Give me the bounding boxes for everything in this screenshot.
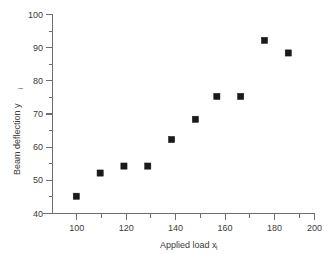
y-axis-title-text: Beam deflection y [12,103,22,175]
y-tick-label-90: 90 [33,43,43,53]
y-tick-label-60: 60 [33,142,43,152]
data-point [261,37,267,43]
y-axis-title-subscript: i [17,88,24,89]
data-point [73,193,79,199]
data-point [238,93,244,99]
data-point [97,170,103,176]
data-point [214,93,220,99]
y-tick-label-70: 70 [33,109,43,119]
plot-canvas: 40 50 60 70 80 90 100 100 120 140 [0,0,334,254]
x-tick-label-180: 180 [267,223,282,233]
data-point [192,116,198,122]
data-point [145,163,151,169]
y-tick-label-80: 80 [33,76,43,86]
x-tick-label-100: 100 [69,223,84,233]
data-point [285,50,291,56]
y-tick-label-100: 100 [28,10,43,20]
x-tick-label-140: 140 [168,223,183,233]
x-tick-label-160: 160 [218,223,233,233]
x-tick-label-120: 120 [119,223,134,233]
data-point [121,163,127,169]
data-point [168,136,174,142]
x-axis-title-subscript: i [216,244,217,251]
y-tick-label-40: 40 [33,209,43,219]
plot-background [0,0,334,254]
x-axis-title-text: Applied load x [160,240,217,250]
y-tick-label-50: 50 [33,175,43,185]
scatter-plot-figure: 40 50 60 70 80 90 100 100 120 140 [0,0,334,254]
x-tick-label-200: 200 [307,223,322,233]
x-axis-title: Applied load x i [160,240,217,251]
